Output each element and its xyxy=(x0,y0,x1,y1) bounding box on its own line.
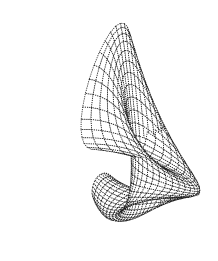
surface-wireframe-plot xyxy=(0,0,218,261)
figure-root xyxy=(0,0,218,261)
